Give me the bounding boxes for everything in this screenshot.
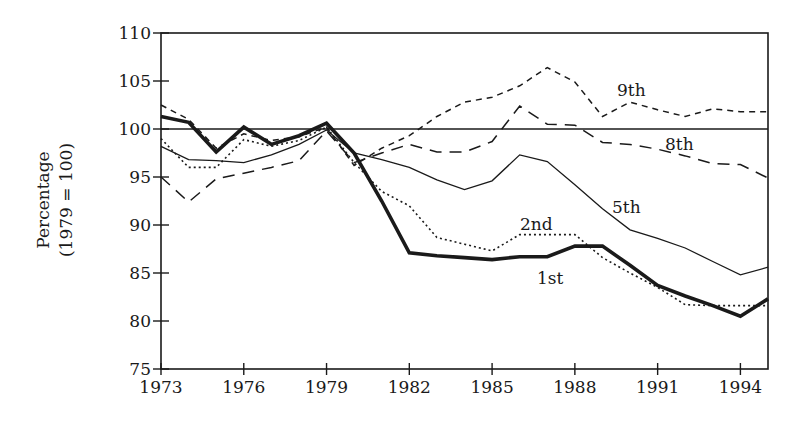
x-tick-label: 1979 (305, 377, 348, 397)
series-lines (161, 68, 768, 317)
y-tick-label: 110 (119, 23, 151, 43)
y-axis-label: Percentage (1979 = 100) (33, 143, 76, 257)
series-line-8th (161, 106, 768, 202)
x-tick-label: 1988 (553, 377, 596, 397)
y-tick-label: 75 (129, 359, 151, 379)
series-label-1st: 1st (537, 268, 564, 288)
x-tick-label: 1991 (636, 377, 679, 397)
x-tick-label: 1982 (388, 377, 431, 397)
chart: Percentage (1979 = 100) 7580859095100105… (0, 0, 812, 432)
axes: 7580859095100105110197319761979198219851… (119, 23, 768, 397)
y-tick-label: 80 (129, 311, 151, 331)
y-tick-label: 105 (119, 71, 151, 91)
x-tick-label: 1973 (139, 377, 182, 397)
x-tick-label: 1994 (719, 377, 762, 397)
series-label-9th: 9th (617, 80, 646, 100)
series-label-5th: 5th (612, 197, 641, 217)
series-label-2nd: 2nd (520, 214, 553, 234)
y-tick-label: 100 (119, 119, 151, 139)
x-tick-label: 1985 (470, 377, 513, 397)
y-tick-label: 95 (129, 167, 151, 187)
y-axis-subtitle: (1979 = 100) (56, 143, 76, 257)
series-label-8th: 8th (665, 134, 694, 154)
y-tick-label: 85 (129, 263, 151, 283)
y-tick-label: 90 (129, 215, 151, 235)
y-axis-title: Percentage (33, 151, 53, 248)
x-tick-label: 1976 (222, 377, 265, 397)
plot-frame (161, 33, 768, 369)
